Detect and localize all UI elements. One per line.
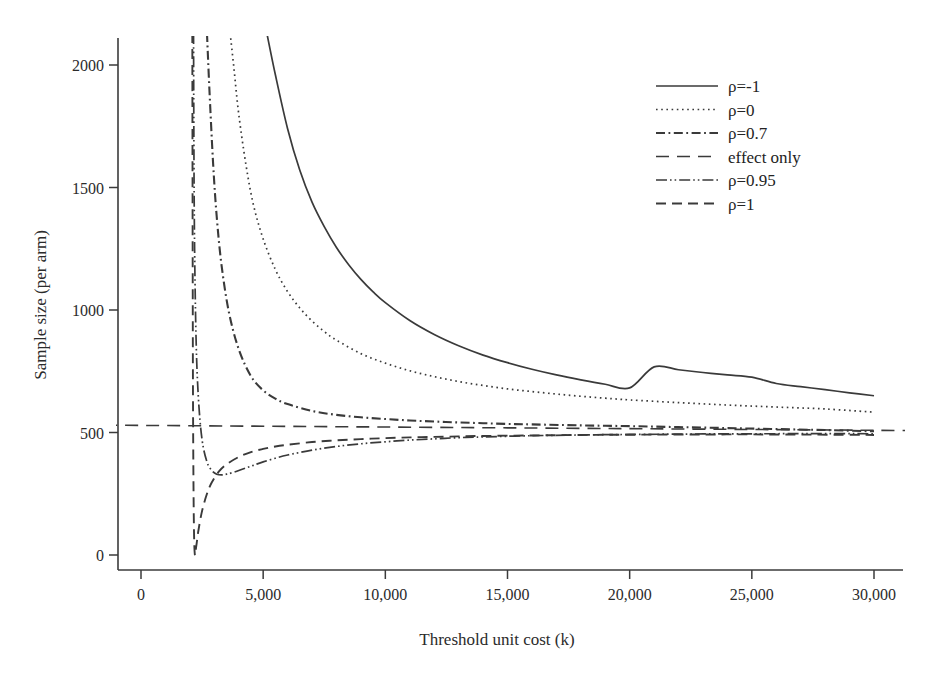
curves-group bbox=[104, 33, 910, 555]
x-tick-label: 10,000 bbox=[363, 586, 407, 603]
y-tick-label: 500 bbox=[80, 425, 104, 442]
y-tick-label: 2000 bbox=[72, 57, 104, 74]
legend-label-5: ρ=1 bbox=[728, 195, 755, 214]
chart-figure: 050010001500200005,00010,00015,00020,000… bbox=[0, 0, 945, 674]
legend-label-0: ρ=-1 bbox=[728, 77, 760, 96]
series-line-4 bbox=[194, 33, 874, 475]
x-tick-label: 25,000 bbox=[730, 586, 774, 603]
x-tick-label: 15,000 bbox=[486, 586, 530, 603]
y-tick-label: 1500 bbox=[72, 180, 104, 197]
x-tick-label: 0 bbox=[137, 586, 145, 603]
legend-label-1: ρ=0 bbox=[728, 101, 755, 120]
legend-label-4: ρ=0.95 bbox=[728, 171, 776, 190]
tick-labels-group: 050010001500200005,00010,00015,00020,000… bbox=[72, 57, 896, 603]
x-axis-title: Threshold unit cost (k) bbox=[419, 630, 574, 649]
y-tick-label: 1000 bbox=[72, 302, 104, 319]
legend-label-3: effect only bbox=[728, 148, 801, 167]
x-tick-label: 5,000 bbox=[245, 586, 281, 603]
x-tick-label: 20,000 bbox=[608, 586, 652, 603]
line-chart-canvas: 050010001500200005,00010,00015,00020,000… bbox=[0, 0, 945, 674]
chart-legend: ρ=-1ρ=0ρ=0.7effect onlyρ=0.95ρ=1 bbox=[656, 77, 801, 214]
series-line-0 bbox=[267, 33, 874, 396]
series-line-1 bbox=[230, 33, 874, 412]
x-tick-label: 30,000 bbox=[852, 586, 896, 603]
y-axis-title: Sample size (per arm) bbox=[31, 230, 50, 380]
y-tick-label: 0 bbox=[96, 547, 104, 564]
series-line-5 bbox=[192, 33, 874, 555]
legend-label-2: ρ=0.7 bbox=[728, 124, 768, 143]
axes-group bbox=[109, 38, 903, 579]
